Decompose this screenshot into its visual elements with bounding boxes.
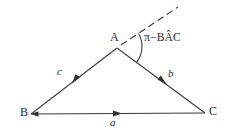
edge-b-arrowhead: [158, 76, 168, 85]
exterior-angle-arc: [137, 34, 143, 63]
edge-label-c: c: [57, 66, 62, 77]
edge-c-arrowhead: [72, 74, 81, 83]
vertex-label-a: A: [110, 31, 119, 43]
edge-label-b: b: [168, 68, 174, 79]
vertex-label-c: C: [209, 105, 217, 117]
vertex-label-b: B: [20, 106, 28, 118]
edge-label-a: a: [110, 117, 116, 128]
geometry-diagram: A B C c b a π−BÂC: [0, 0, 231, 133]
baseline-left-arrowhead: [31, 111, 39, 116]
exterior-angle-label: π−BÂC: [144, 32, 181, 44]
diagram-canvas: [0, 0, 231, 133]
